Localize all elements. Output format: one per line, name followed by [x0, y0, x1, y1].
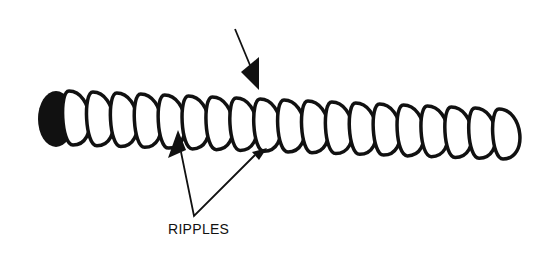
ripples-label: RIPPLES [168, 221, 229, 237]
top-arrow [235, 29, 259, 90]
tube-rings [63, 91, 520, 159]
tube-ring [493, 109, 520, 159]
tube-illustration [0, 0, 547, 260]
ripples-pointer-arrows [181, 152, 255, 216]
tube-diagram: RIPPLES [0, 0, 547, 260]
